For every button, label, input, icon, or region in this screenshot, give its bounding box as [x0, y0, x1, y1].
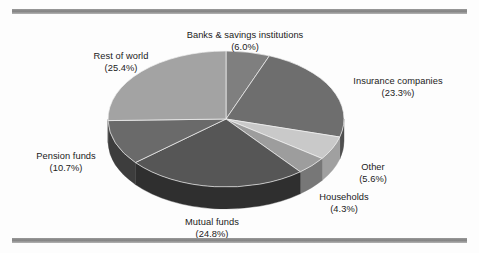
slice-percent-text: (23.3%) — [324, 88, 472, 100]
slice-label-other: Other (5.6%) — [336, 162, 410, 185]
slice-label-mutual-funds: Mutual funds (24.8%) — [152, 217, 272, 240]
slice-label-households: Households (4.3%) — [296, 192, 392, 215]
slice-label-text: Banks & savings institutions — [187, 30, 304, 40]
slice-percent-text: (25.4%) — [62, 63, 180, 75]
slice-label-insurance-companies: Insurance companies (23.3%) — [324, 76, 472, 99]
slice-percent-text: (4.3%) — [296, 204, 392, 216]
slice-label-pension-funds: Pension funds (10.7%) — [14, 151, 118, 174]
slice-percent-text: (10.7%) — [14, 163, 118, 175]
slice-label-text: Mutual funds — [185, 217, 239, 227]
slice-label-rest-of-world: Rest of world (25.4%) — [62, 51, 180, 74]
slice-label-banks-and-savings-institutions: Banks & savings institutions (6.0%) — [154, 30, 336, 53]
slice-label-text: Households — [319, 192, 369, 202]
slice-label-text: Pension funds — [36, 151, 96, 161]
pie-chart-figure: Banks & savings institutions (6.0%) Insu… — [0, 0, 479, 253]
chart-plot-area: Banks & savings institutions (6.0%) Insu… — [0, 14, 479, 236]
slice-label-text: Insurance companies — [353, 76, 442, 86]
slice-percent-text: (6.0%) — [154, 42, 336, 54]
slice-label-text: Rest of world — [94, 51, 149, 61]
bottom-divider-rule — [12, 238, 467, 243]
slice-label-text: Other — [361, 162, 385, 172]
slice-percent-text: (5.6%) — [336, 174, 410, 186]
